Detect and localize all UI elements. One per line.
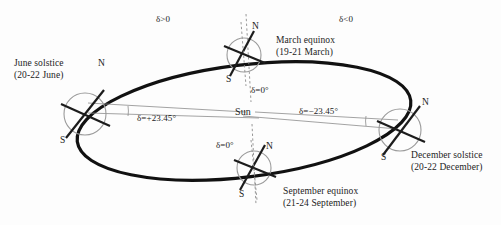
declination-region-negative-label: δ<0 [339,14,353,25]
september-south-pole-label: S [239,189,244,200]
december-sun-line [243,116,398,129]
declination-region-positive-label: δ>0 [156,14,170,25]
september-equinox-dates: (21-24 September) [283,198,356,209]
march-south-pole-label: S [226,74,231,85]
june-north-pole-label: N [98,58,105,69]
june-declination-value: δ=+23.45° [137,113,176,124]
march-equinox-name: March equinox [276,35,335,46]
december-solstice-name: December solstice [411,150,483,161]
march-declination-value: δ=0° [251,85,269,96]
june-solstice-name: June solstice [14,58,64,69]
march-north-pole-label: N [252,21,259,32]
december-north-pole-label: N [422,97,429,108]
june-horizontal-ref [88,103,246,112]
globe-june-solstice [61,90,110,138]
december-rotation-axis [383,106,420,155]
june-south-pole-label: S [60,135,65,146]
december-south-pole-label: S [381,152,386,163]
december-solstice-dates: (20-22 December) [411,162,483,173]
september-equinox-name: September equinox [283,186,358,197]
march-equinox-dates: (19-21 March) [276,47,333,58]
september-declination-value: δ=0° [216,140,234,151]
december-declination-value: δ=−23.45° [299,106,338,117]
sun-label: Sun [235,106,251,118]
june-solstice-dates: (20-22 June) [14,70,63,81]
september-north-pole-label: N [266,141,273,152]
orbit-diagram: δ>0 δ<0 Sun June solstice (20-22 June) N… [0,0,501,225]
globe-december-solstice [377,106,425,155]
